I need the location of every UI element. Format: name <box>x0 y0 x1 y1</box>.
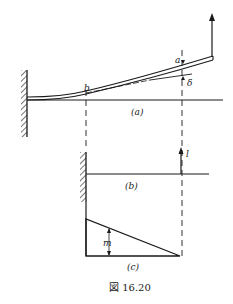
beam-deflection-figure: a b δ (a) l (b) m (c) 図 16.20 <box>0 0 233 304</box>
panel-b: l (b) <box>80 147 209 202</box>
fixed-wall-b <box>80 152 86 202</box>
tangent-line <box>86 80 150 93</box>
panel-a: a b δ (a) <box>21 13 223 137</box>
panel-c-label: (c) <box>127 262 140 272</box>
unit-load-arrow-icon <box>179 147 184 174</box>
load-arrow-icon <box>209 13 215 57</box>
deflected-beam <box>27 56 213 97</box>
panel-a-label: (a) <box>131 107 144 117</box>
deflected-beam-lower <box>27 60 213 100</box>
panel-c: m (c) <box>86 202 180 272</box>
panel-b-label: (b) <box>125 181 138 191</box>
point-b-label: b <box>84 83 90 93</box>
unit-load-label: l <box>186 149 189 159</box>
moment-diagram <box>86 219 180 256</box>
moment-label: m <box>103 238 112 248</box>
fixed-wall-a <box>21 70 27 137</box>
figure-caption: 図 16.20 <box>109 282 151 293</box>
delta-label: δ <box>187 78 192 88</box>
point-a-label: a <box>175 55 180 65</box>
